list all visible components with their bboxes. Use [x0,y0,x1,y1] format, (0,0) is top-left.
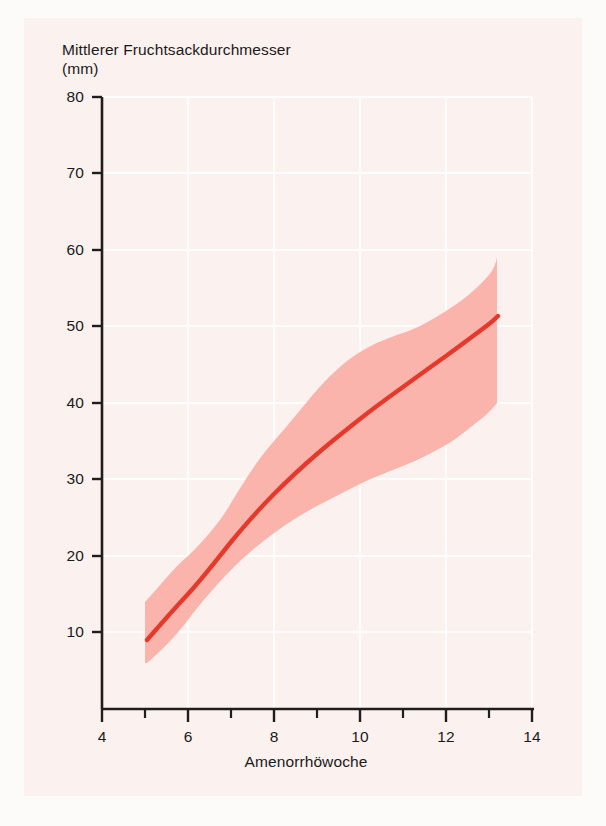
y-tick-label-70: 70 [44,164,84,182]
x-tick-label-6: 6 [168,728,208,746]
y-tick-label-80: 80 [44,88,84,106]
x-tick-label-8: 8 [254,728,294,746]
chart-canvas [0,0,606,826]
y-tick-label-20: 20 [44,547,84,565]
chart-figure: Mittlerer Fruchtsackdurchmesser (mm) 80 … [0,0,606,826]
y-tick-label-50: 50 [44,317,84,335]
y-tick-label-10: 10 [44,623,84,641]
y-tick-label-40: 40 [44,394,84,412]
x-axis-minor-ticks [145,709,489,718]
reference-band [145,257,497,663]
x-tick-label-12: 12 [426,728,466,746]
y-axis-ticks [92,97,102,632]
x-axis-title: Amenorrhöwoche [156,753,456,771]
chart-title-unit: (mm) [62,59,99,78]
y-tick-label-60: 60 [44,241,84,259]
y-tick-label-30: 30 [44,470,84,488]
x-tick-label-4: 4 [82,728,122,746]
x-tick-label-10: 10 [340,728,380,746]
chart-title: Mittlerer Fruchtsackdurchmesser [62,40,291,59]
x-tick-label-14: 14 [512,728,552,746]
